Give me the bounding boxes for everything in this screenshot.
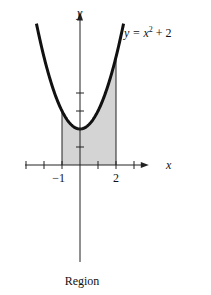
- function-label-lhs: y = x: [123, 26, 149, 40]
- shaded-region: [62, 57, 116, 165]
- y-axis-label: y: [76, 6, 83, 20]
- function-label: y = x2 + 2: [123, 25, 172, 40]
- caption: Region: [65, 274, 100, 288]
- x-axis-label: x: [165, 158, 172, 172]
- x-tick-label: 2: [113, 171, 119, 185]
- x-tick-label: −1: [52, 171, 65, 185]
- function-label-rhs: + 2: [153, 26, 172, 40]
- region-chart: −12 y x y = x2 + 2 Region: [0, 0, 211, 295]
- x-axis-arrow: [141, 162, 149, 168]
